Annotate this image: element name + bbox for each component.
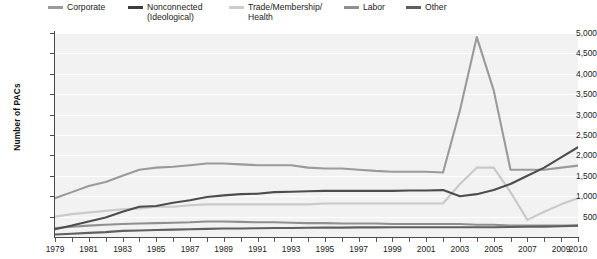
x-axis-tick-mark [308, 238, 309, 242]
y-axis-tick-label: 4,500 [549, 48, 597, 58]
y-axis-tick-mark [50, 135, 54, 136]
x-axis-tick-mark [392, 238, 393, 242]
y-axis-tick-mark [50, 115, 54, 116]
x-axis-tick-mark [173, 238, 174, 242]
y-axis-title: Number of PACs [12, 77, 22, 157]
x-axis-tick-label: 2009 [552, 244, 571, 254]
x-axis-tick-label: 1997 [349, 244, 368, 254]
x-axis-tick-mark [325, 238, 326, 242]
y-axis-tick-mark [50, 53, 54, 54]
legend-item-trade-membership-health[interactable]: Trade/Membership/ Health [229, 3, 322, 22]
x-axis-tick-label: 1989 [214, 244, 233, 254]
x-axis-tick-mark [511, 238, 512, 242]
y-axis-tick-label: 1,500 [549, 171, 597, 181]
x-axis-tick-mark [139, 238, 140, 242]
x-axis-tick-label: 1987 [181, 244, 200, 254]
legend-item-nonconnected[interactable]: Nonconnected (Ideological) [128, 3, 202, 22]
x-axis-tick-label: 1993 [282, 244, 301, 254]
legend-item-other[interactable]: Other [406, 3, 447, 13]
x-axis-tick-label: 1981 [79, 244, 98, 254]
legend-swatch-corporate [48, 6, 63, 9]
y-axis-tick-mark [50, 74, 54, 75]
x-axis-tick-mark [460, 238, 461, 242]
x-axis-tick-label: 1985 [147, 244, 166, 254]
chart-legend: Corporate Nonconnected (Ideological) Tra… [0, 0, 597, 26]
x-axis-tick-label: 1983 [113, 244, 132, 254]
x-axis-tick-mark [527, 238, 528, 242]
x-axis-tick-mark [359, 238, 360, 242]
x-axis-tick-mark [544, 238, 545, 242]
x-axis-tick-mark [443, 238, 444, 242]
x-axis-tick-label: 1995 [316, 244, 335, 254]
series-line-other [55, 226, 578, 235]
x-axis-tick-mark [156, 238, 157, 242]
x-axis-tick-mark [55, 238, 56, 242]
x-axis-tick-mark [477, 238, 478, 242]
legend-swatch-nonconnected [128, 6, 143, 9]
y-axis-tick-label: 4,000 [549, 69, 597, 79]
x-axis-tick-mark [274, 238, 275, 242]
y-axis-tick-mark [50, 33, 54, 34]
x-axis-tick-mark [89, 238, 90, 242]
legend-swatch-other [406, 6, 421, 9]
y-axis-tick-label: 500 [549, 212, 597, 222]
legend-label-labor: Labor [363, 3, 385, 13]
y-axis-tick-mark [50, 176, 54, 177]
series-lines [55, 33, 578, 237]
x-axis-tick-label: 1979 [46, 244, 65, 254]
x-axis-tick-mark [342, 238, 343, 242]
x-axis-tick-label: 2007 [518, 244, 537, 254]
y-axis-tick-label: 3,000 [549, 110, 597, 120]
series-line-nonconnected [55, 147, 578, 229]
x-axis-tick-label: 2010 [569, 244, 588, 254]
x-axis-tick-label: 2005 [484, 244, 503, 254]
legend-label-trade-membership-health: Trade/Membership/ Health [248, 3, 322, 22]
x-axis-tick-label: 2001 [417, 244, 436, 254]
series-line-trade-membership [55, 168, 578, 220]
x-axis-tick-mark [190, 238, 191, 242]
x-axis-tick-mark [409, 238, 410, 242]
x-axis-tick-mark [106, 238, 107, 242]
x-axis-tick-mark [123, 238, 124, 242]
x-axis-tick-mark [258, 238, 259, 242]
x-axis-tick-mark [578, 238, 579, 242]
legend-label-corporate: Corporate [67, 3, 105, 13]
x-axis-tick-label: 2003 [451, 244, 470, 254]
x-axis-tick-mark [207, 238, 208, 242]
x-axis-tick-mark [376, 238, 377, 242]
y-axis-tick-label: 3,500 [549, 89, 597, 99]
y-axis-line [54, 31, 55, 238]
y-axis-tick-label: 2,000 [549, 150, 597, 160]
y-axis-tick-label: 2,500 [549, 130, 597, 140]
y-axis-tick-mark [50, 217, 54, 218]
legend-label-nonconnected: Nonconnected (Ideological) [147, 3, 202, 22]
x-axis-tick-label: 1991 [248, 244, 267, 254]
x-axis-tick-mark [426, 238, 427, 242]
series-line-corporate [55, 37, 578, 198]
legend-swatch-labor [344, 6, 359, 9]
x-axis-tick-mark [291, 238, 292, 242]
x-axis-tick-mark [561, 238, 562, 242]
y-axis-tick-mark [50, 196, 54, 197]
y-axis-tick-mark [50, 94, 54, 95]
x-axis-line [54, 237, 579, 238]
y-axis-tick-label: 1,000 [549, 191, 597, 201]
y-axis-tick-mark [50, 155, 54, 156]
plot-area [55, 33, 578, 237]
x-axis-tick-mark [494, 238, 495, 242]
x-axis-tick-mark [72, 238, 73, 242]
legend-item-corporate[interactable]: Corporate [48, 3, 105, 13]
x-axis-tick-mark [224, 238, 225, 242]
legend-item-labor[interactable]: Labor [344, 3, 385, 13]
legend-swatch-trade-membership-health [229, 6, 244, 9]
pac-count-line-chart: Corporate Nonconnected (Ideological) Tra… [0, 0, 597, 259]
x-axis-tick-label: 1999 [383, 244, 402, 254]
y-axis-tick-label: 5,000 [549, 28, 597, 38]
x-axis-tick-mark [241, 238, 242, 242]
legend-label-other: Other [425, 3, 447, 13]
